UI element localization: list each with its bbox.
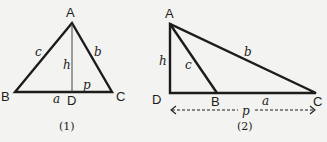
side-a-label-1: a	[53, 92, 60, 106]
segment-p-label-1: p	[83, 78, 91, 92]
vertex-a-label-1: A	[66, 5, 75, 20]
vertex-c-label-2: C	[313, 94, 322, 109]
figure-caption-2: (2)	[237, 120, 253, 133]
vertex-b-label-2: B	[211, 94, 220, 109]
side-b-label-2: b	[244, 45, 252, 59]
right-triangle-adc-outline	[170, 24, 316, 93]
figure-caption-1: (1)	[59, 120, 75, 133]
vertex-c-label-1: C	[116, 89, 125, 104]
altitude-h-label-1: h	[63, 58, 71, 72]
side-c-label-1: c	[35, 45, 42, 59]
diagram-canvas: A B C D c b h p a (1) A D B C h c b a p …	[0, 0, 327, 142]
figure-1: A B C D c b h p a (1)	[1, 5, 125, 133]
side-a-label-2: a	[262, 94, 269, 108]
vertex-d-label-1: D	[67, 93, 76, 108]
span-p-label-2: p	[242, 104, 250, 118]
side-b-label-1: b	[94, 45, 102, 59]
side-c-label-2: c	[185, 58, 192, 72]
vertex-b-label-1: B	[1, 89, 10, 104]
vertex-d-label-2: D	[152, 92, 161, 107]
figure-2: A D B C h c b a p (2)	[152, 6, 322, 133]
vertex-a-label-2: A	[165, 6, 174, 21]
altitude-h-label-2: h	[159, 54, 167, 68]
